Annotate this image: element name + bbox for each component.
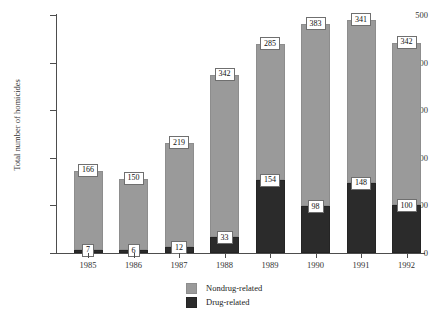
value-label-drug-1989: 154: [260, 174, 280, 187]
bar-segment-nondrug-1988: [210, 75, 239, 238]
bar-segment-drug-1991: [347, 183, 376, 253]
legend-item-drug-related: Drug-related: [186, 295, 262, 309]
bar-group-1990: 38398: [301, 0, 330, 318]
y-tick-200: [50, 158, 56, 159]
bar-segment-nondrug-1986: [119, 179, 148, 250]
x-tick-1991: [361, 253, 362, 258]
x-tick-1988: [225, 253, 226, 258]
value-label-nondrug-1988: 342: [215, 68, 235, 81]
x-tick-1986: [134, 253, 135, 258]
y-axis-title: Total number of homicides: [12, 55, 22, 195]
value-label-nondrug-1992: 342: [397, 36, 417, 49]
y-tick-0: [50, 253, 56, 254]
legend-item-nondrug-related: Nondrug-related: [186, 281, 262, 295]
legend-label-drug: Drug-related: [206, 298, 249, 307]
bar-segment-drug-1992: [392, 205, 421, 253]
bar-group-1988: 34233: [210, 0, 239, 318]
x-tick-label-1989: 1989: [247, 261, 293, 270]
y-tick-500: [50, 15, 56, 16]
x-tick-1990: [316, 253, 317, 258]
x-tick-label-1992: 1992: [384, 261, 430, 270]
chart-legend: Nondrug-related Drug-related: [186, 281, 262, 309]
bar-segment-nondrug-1991: [347, 20, 376, 182]
bar-segment-nondrug-1985: [74, 171, 103, 250]
x-tick-label-1990: 1990: [293, 261, 339, 270]
x-tick-1989: [270, 253, 271, 258]
bar-group-1992: 342100: [392, 0, 421, 318]
bar-group-1985: 1667: [74, 0, 103, 318]
value-label-nondrug-1991: 341: [351, 13, 371, 26]
drug-swatch-icon: [186, 297, 197, 308]
y-tick-300: [50, 110, 56, 111]
bar-group-1991: 341148: [347, 0, 376, 318]
bar-group-1987: 21912: [165, 0, 194, 318]
value-label-drug-1988: 33: [217, 231, 233, 244]
value-label-drug-1991: 148: [351, 177, 371, 190]
x-tick-label-1991: 1991: [338, 261, 384, 270]
bar-segment-nondrug-1989: [256, 44, 285, 180]
bar-segment-nondrug-1990: [301, 24, 330, 206]
x-tick-label-1987: 1987: [156, 261, 202, 270]
x-tick-1987: [179, 253, 180, 258]
bar-segment-drug-1989: [256, 180, 285, 253]
value-label-nondrug-1985: 166: [78, 164, 98, 177]
value-label-nondrug-1986: 150: [124, 172, 144, 185]
y-axis-line: [56, 14, 57, 254]
bar-group-1986: 1506: [119, 0, 148, 318]
value-label-drug-1992: 100: [397, 199, 417, 212]
bar-group-1989: 285154: [256, 0, 285, 318]
bar-segment-nondrug-1987: [165, 143, 194, 247]
bar-segment-nondrug-1992: [392, 43, 421, 206]
value-label-nondrug-1987: 219: [169, 136, 189, 149]
value-label-nondrug-1989: 285: [260, 37, 280, 50]
y-tick-400: [50, 63, 56, 64]
nondrug-swatch-icon: [186, 283, 197, 294]
x-tick-label-1988: 1988: [202, 261, 248, 270]
legend-label-nondrug: Nondrug-related: [206, 284, 262, 293]
x-tick-label-1986: 1986: [111, 261, 157, 270]
x-tick-label-1985: 1985: [65, 261, 111, 270]
y-tick-100: [50, 205, 56, 206]
x-tick-1992: [407, 253, 408, 258]
x-tick-1985: [88, 253, 89, 258]
value-label-nondrug-1990: 383: [306, 17, 326, 30]
value-label-drug-1990: 98: [308, 200, 324, 213]
